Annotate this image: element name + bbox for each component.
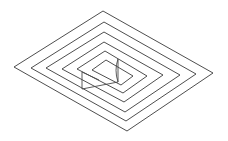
figure-root: Isometric nested diamond line drawing <box>0 0 228 141</box>
canvas-background <box>0 0 228 141</box>
diagram-canvas <box>0 0 228 141</box>
